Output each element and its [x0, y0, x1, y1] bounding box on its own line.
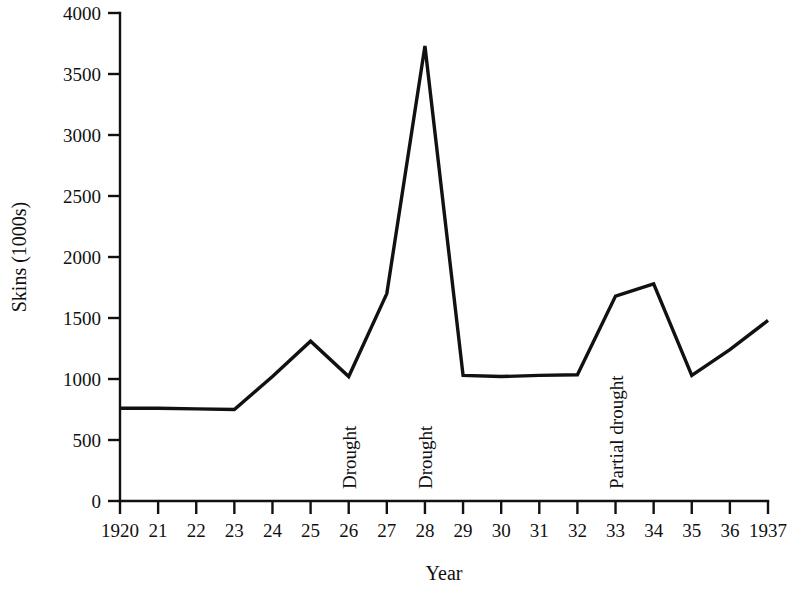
- x-tick-label: 23: [225, 520, 244, 541]
- y-tick-label: 500: [73, 430, 102, 451]
- data-series: [120, 46, 768, 410]
- chart-figure: 05001000150020002500300035004000 1920212…: [0, 0, 792, 597]
- x-tick-label: 36: [720, 520, 739, 541]
- x-tick-label: 27: [377, 520, 396, 541]
- x-tick-label: 21: [149, 520, 168, 541]
- series-line: [120, 46, 768, 410]
- x-tick-label: 1920: [101, 520, 139, 541]
- x-tick-label: 35: [682, 520, 701, 541]
- x-tick-label: 31: [530, 520, 549, 541]
- y-axis-title: Skins (1000s): [8, 202, 31, 313]
- x-tick-label: 24: [263, 520, 283, 541]
- x-tick-label: 32: [568, 520, 587, 541]
- y-tick-label: 2000: [63, 247, 101, 268]
- y-tick-label: 1500: [63, 308, 101, 329]
- x-tick-label: 26: [339, 520, 358, 541]
- x-tick-label: 25: [301, 520, 320, 541]
- y-axis: [108, 13, 120, 501]
- x-tick-labels: 1920212223242526272829303132333435361937: [101, 520, 787, 541]
- x-tick-label: 33: [606, 520, 625, 541]
- annotation-label: Partial drought: [606, 375, 627, 489]
- annotation-label: Drought: [415, 425, 436, 489]
- y-tick-label: 1000: [63, 369, 101, 390]
- x-tick-label: 22: [187, 520, 206, 541]
- x-tick-label: 30: [492, 520, 511, 541]
- x-axis-title: Year: [426, 562, 463, 584]
- y-tick-labels: 05001000150020002500300035004000: [63, 3, 101, 512]
- x-tick-label: 1937: [749, 520, 787, 541]
- chart-annotations: DroughtDroughtPartial drought: [339, 375, 627, 489]
- annotation-label: Drought: [339, 425, 360, 489]
- x-tick-label: 28: [415, 520, 434, 541]
- line-chart-svg: 05001000150020002500300035004000 1920212…: [0, 0, 792, 597]
- x-tick-label: 34: [644, 520, 664, 541]
- y-tick-label: 4000: [63, 3, 101, 24]
- y-tick-label: 0: [92, 491, 102, 512]
- y-tick-label: 3000: [63, 125, 101, 146]
- x-tick-label: 29: [454, 520, 473, 541]
- x-axis: [120, 501, 768, 514]
- y-tick-label: 2500: [63, 186, 101, 207]
- y-tick-label: 3500: [63, 64, 101, 85]
